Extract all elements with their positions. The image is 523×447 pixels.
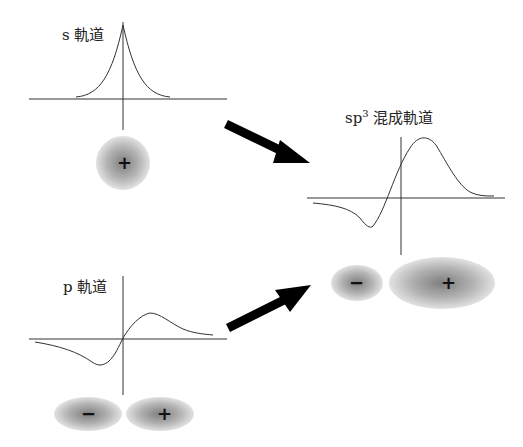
arrow-p-to-sp3 <box>228 285 311 328</box>
p-orbital-lobes <box>54 397 194 431</box>
sp3-lobe-minus-sign: − <box>349 274 364 292</box>
p-orbital-label: p 軌道 <box>63 275 107 296</box>
sp3-lobe-plus-sign: + <box>441 274 456 292</box>
p-lobe-minus-sign: − <box>81 405 96 423</box>
p-orbital-graph <box>29 276 227 395</box>
sp3-curve <box>313 138 494 227</box>
s-orbital-label: s 軌道 <box>62 23 104 44</box>
arrow-s-to-sp3 <box>226 124 310 163</box>
sp3-orbital-graph <box>307 137 505 255</box>
s-lobe-plus-sign: + <box>117 154 132 172</box>
s-orbital-graph <box>29 22 227 130</box>
orbital-diagram <box>0 0 523 447</box>
sp3-orbital-label: sp3 混成軌道 <box>345 106 433 127</box>
p-lobe-plus-sign: + <box>157 405 172 423</box>
